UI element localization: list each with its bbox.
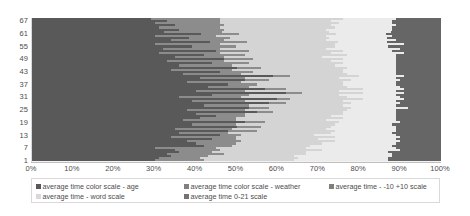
y-axis-tick-49: 49 [4,55,28,63]
legend-swatch-icon [184,194,189,199]
stacked-bar-chart: 6761554943373125191371 0%10%20%30%40%50%… [0,0,470,216]
legend-swatch-icon [36,184,41,189]
y-axis-tick-31: 31 [4,93,28,101]
legend-label: average time - word scale [43,192,125,201]
legend-row-1: average time color scale - age average t… [36,181,439,191]
legend-item-average-time-color-scale-age[interactable]: average time color scale - age [36,181,184,191]
x-axis-tick-30pct: 30% [134,164,174,174]
chart-legend: average time color scale - age average t… [31,178,440,203]
y-axis-tick-37: 37 [4,81,28,89]
x-axis-tick-40pct: 40% [175,164,215,174]
x-axis-tick-90pct: 90% [379,164,419,174]
legend-item-average-time-color-scale-weather[interactable]: average time color scale - weather [184,181,329,191]
legend-label: average time color scale - age [43,182,139,191]
legend-item-average-time-word-scale[interactable]: average time - word scale [36,191,184,201]
legend-swatch-icon [329,184,334,189]
plot-area [31,18,441,162]
y-axis-tick-61: 61 [4,30,28,38]
plot-wrapper: 6761554943373125191371 0%10%20%30%40%50%… [0,12,470,164]
y-axis: 6761554943373125191371 [4,18,28,162]
y-axis-tick-13: 13 [4,132,28,140]
y-axis-tick-25: 25 [4,106,28,114]
x-axis-line [31,162,441,163]
x-axis-tick-100pct: 100% [420,164,460,174]
legend-swatch-icon [184,184,189,189]
legend-item-average-time-0-21-scale[interactable]: average time 0-21 scale [184,191,329,201]
y-axis-tick-19: 19 [4,119,28,127]
legend-row-2: average time - word scale average time 0… [36,191,439,201]
legend-item-average-time-minus10-plus10-scale[interactable]: average time - -10 +10 scale [329,181,439,191]
x-axis-tick-0pct: 0% [11,164,51,174]
x-axis-tick-10pct: 10% [52,164,92,174]
y-axis-tick-43: 43 [4,68,28,76]
x-axis-tick-70pct: 70% [297,164,337,174]
x-axis-tick-50pct: 50% [216,164,256,174]
x-axis-tick-20pct: 20% [93,164,133,174]
y-axis-tick-67: 67 [4,17,28,25]
legend-label: average time 0-21 scale [191,192,268,201]
x-axis: 0%10%20%30%40%50%60%70%80%90%100% [0,164,470,178]
x-axis-tick-60pct: 60% [256,164,296,174]
x-axis-tick-80pct: 80% [338,164,378,174]
y-axis-tick-7: 7 [4,144,28,152]
legend-label: average time color scale - weather [191,182,301,191]
y-axis-tick-55: 55 [4,43,28,51]
legend-label: average time - -10 +10 scale [336,182,427,191]
legend-swatch-icon [36,194,41,199]
